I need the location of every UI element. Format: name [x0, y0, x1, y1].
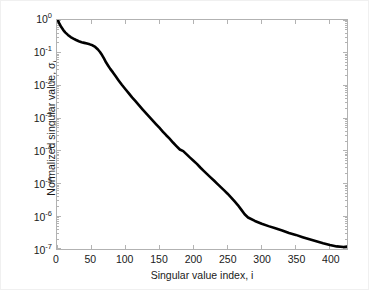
x-tick-label: 150 [150, 254, 168, 265]
curve-path [58, 20, 347, 247]
singular-value-curve [57, 20, 347, 249]
y-axis-title: Normalized singular value, σi [46, 35, 57, 221]
figure-canvas: 10010-110-210-310-410-510-610-7 Normaliz… [0, 0, 369, 290]
x-tick-label: 100 [116, 254, 134, 265]
y-tick-label: 100 [36, 14, 52, 25]
y-tick-label: 10-7 [34, 245, 52, 256]
x-tick-label: 400 [322, 254, 340, 265]
x-tick-label: 300 [253, 254, 271, 265]
x-axis-title: Singular value index, i [56, 270, 348, 281]
x-tick-label: 0 [53, 254, 59, 265]
y-axis-title-text: Normalized singular value, σ [45, 63, 57, 196]
x-tick-label: 200 [185, 254, 203, 265]
x-tick-label: 250 [219, 254, 237, 265]
x-tick-label: 350 [288, 254, 306, 265]
x-tick-label: 50 [85, 254, 97, 265]
plot-area [56, 19, 348, 250]
x-axis-tick-labels: 050100150200250300350400 [56, 254, 348, 268]
